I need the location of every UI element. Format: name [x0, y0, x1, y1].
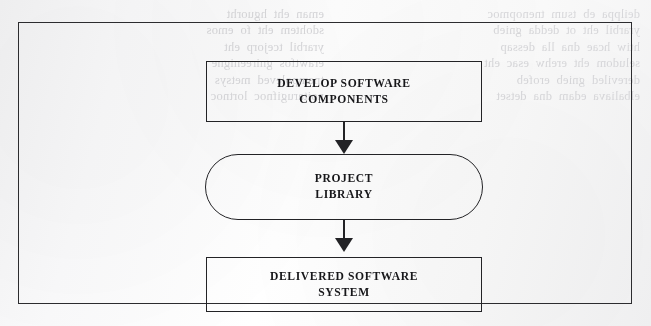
node-label-delivered: DELIVERED SOFTWARE SYSTEM	[270, 269, 418, 301]
node-label-library-line1: PROJECT	[315, 172, 373, 185]
diagram-node-delivered-software-system: DELIVERED SOFTWARE SYSTEM	[206, 257, 482, 312]
node-label-delivered-line2: SYSTEM	[318, 286, 369, 299]
scanned-page: eman eht hguorht sdohtem eht fo emos yra…	[0, 0, 651, 326]
edge-library-to-delivered-arrowhead-icon	[335, 238, 353, 252]
node-label-library: PROJECT LIBRARY	[315, 171, 373, 203]
node-label-library-line2: LIBRARY	[315, 188, 372, 201]
figure-border: DEVELOP SOFTWARE COMPONENTS PROJECT LIBR…	[18, 22, 632, 304]
node-label-develop-line2: COMPONENTS	[299, 93, 388, 106]
edge-develop-to-library-arrowhead-icon	[335, 140, 353, 154]
node-label-delivered-line1: DELIVERED SOFTWARE	[270, 270, 418, 283]
node-label-develop: DEVELOP SOFTWARE COMPONENTS	[277, 76, 410, 108]
node-label-develop-line1: DEVELOP SOFTWARE	[277, 77, 410, 90]
diagram-node-develop-software-components: DEVELOP SOFTWARE COMPONENTS	[206, 61, 482, 122]
diagram-node-project-library: PROJECT LIBRARY	[205, 154, 483, 220]
